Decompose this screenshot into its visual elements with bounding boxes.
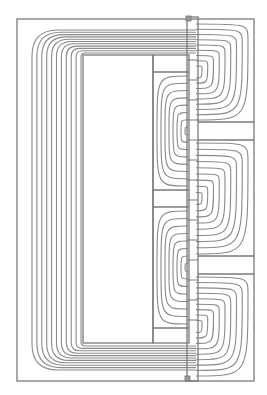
flux-plot-svg — [0, 0, 267, 395]
bottom-marker — [185, 376, 190, 381]
flux-line-outer — [37, 32, 196, 367]
flux-line-right — [196, 66, 202, 78]
flux-line-right — [196, 299, 225, 355]
flux-line-outer — [71, 48, 196, 350]
flux-plot-canvas — [0, 0, 267, 395]
flux-line-outer — [47, 37, 196, 363]
geometry-outlines — [17, 17, 254, 381]
gap-markers — [185, 16, 191, 381]
flux-line-right — [196, 321, 202, 333]
flux-line-right — [196, 168, 225, 230]
flux-line-right — [196, 24, 248, 120]
flux-line-outer — [76, 51, 196, 349]
flux-line-right — [196, 193, 202, 205]
flux-line-right — [196, 277, 248, 376]
flux-line-outer — [52, 39, 196, 360]
flux-line-right — [196, 45, 225, 99]
flux-lines — [32, 24, 248, 376]
core-window — [83, 55, 153, 343]
top-marker — [186, 16, 191, 21]
flux-line-outer — [66, 46, 196, 353]
flux-line-right — [196, 143, 248, 254]
flux-line-outer — [57, 42, 197, 359]
outer-boundary — [17, 19, 254, 381]
flux-line-outer — [81, 53, 196, 346]
